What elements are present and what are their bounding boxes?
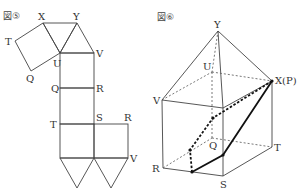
figure-5-title: 図⑤ bbox=[3, 11, 20, 21]
hidden-edge-rq bbox=[163, 138, 212, 168]
label-u: U bbox=[53, 58, 61, 69]
label-r-mid: R bbox=[96, 83, 104, 94]
cross-section-visible-path bbox=[192, 81, 272, 172]
label-r: R bbox=[152, 163, 160, 174]
label-u: U bbox=[203, 61, 211, 72]
label-t-low: T bbox=[50, 119, 57, 130]
label-x: X bbox=[38, 11, 46, 22]
square-face-4 bbox=[94, 124, 128, 158]
figure-5: 図⑤ X Y T Q U V Q R T S R V bbox=[3, 11, 138, 188]
square-face-3 bbox=[60, 124, 94, 158]
triangle-face-bottom-2 bbox=[94, 158, 128, 188]
label-s: S bbox=[220, 179, 227, 190]
label-q-mid: Q bbox=[51, 83, 59, 94]
label-q: Q bbox=[209, 140, 217, 151]
point-p bbox=[270, 79, 273, 82]
point-section-1 bbox=[211, 116, 214, 119]
point-section-4 bbox=[221, 153, 224, 156]
label-y: Y bbox=[213, 19, 221, 30]
edge-vr bbox=[162, 100, 163, 168]
label-v: V bbox=[152, 95, 161, 106]
label-v-top: V bbox=[95, 48, 104, 59]
figure-6-title: 図⑥ bbox=[157, 12, 174, 22]
triangle-face-yvu bbox=[60, 23, 94, 53]
label-t-top: T bbox=[5, 36, 12, 47]
point-section-3 bbox=[190, 170, 193, 173]
label-q-top: Q bbox=[26, 73, 34, 84]
figure-6: 図⑥ Y U X(P) V Q T R S bbox=[152, 12, 297, 190]
top-front-edges bbox=[162, 81, 272, 108]
cross-section-hidden-path bbox=[190, 81, 272, 172]
pyramid-front-edge bbox=[218, 31, 223, 108]
label-t: T bbox=[274, 142, 281, 153]
label-s: S bbox=[96, 112, 103, 123]
square-face-1 bbox=[60, 53, 94, 88]
label-r-low: R bbox=[124, 112, 132, 123]
bottom-front-edges bbox=[163, 147, 272, 176]
label-xp: X(P) bbox=[275, 75, 297, 86]
hidden-edge-qt bbox=[212, 138, 272, 147]
point-section-2 bbox=[188, 148, 191, 151]
triangle-face-xyu bbox=[43, 23, 77, 53]
square-face-2 bbox=[60, 88, 94, 124]
label-y: Y bbox=[72, 11, 80, 22]
hidden-edge-vu bbox=[162, 72, 212, 100]
label-v-low: V bbox=[129, 153, 138, 164]
diagram-canvas: 図⑤ X Y T Q U V Q R T S R V 図⑥ bbox=[0, 0, 302, 193]
triangle-face-bottom-1 bbox=[60, 158, 94, 188]
